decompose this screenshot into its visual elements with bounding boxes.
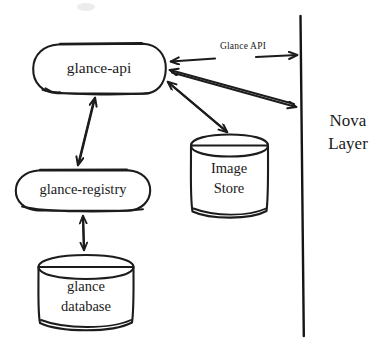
scan-smudge [77,3,95,11]
node-label-glance-database-line1: glance [67,278,105,294]
node-label-image-store-line2: Store [214,180,245,196]
boundary-label-nova-line2: Layer [328,134,368,153]
edge-api-to-registry [78,98,95,165]
node-label-glance-registry: glance-registry [40,181,128,197]
diagram-canvas: glance-api glance-registry Image Store g… [0,0,389,346]
nova-boundary-line [301,16,304,336]
edge-api-to-nova [170,70,296,107]
edge-glance-api [171,55,297,62]
node-label-image-store-line1: Image [211,160,247,176]
edge-api-to-store [168,82,227,132]
glance-architecture-diagram: glance-api glance-registry Image Store g… [0,0,389,346]
node-label-glance-database-line2: database [61,298,111,314]
boundary-label-nova-line1: Nova [330,111,367,130]
edge-label-glance-api: Glance API [220,41,266,51]
node-label-glance-api: glance-api [67,59,132,76]
edge-registry-to-database [83,216,84,250]
